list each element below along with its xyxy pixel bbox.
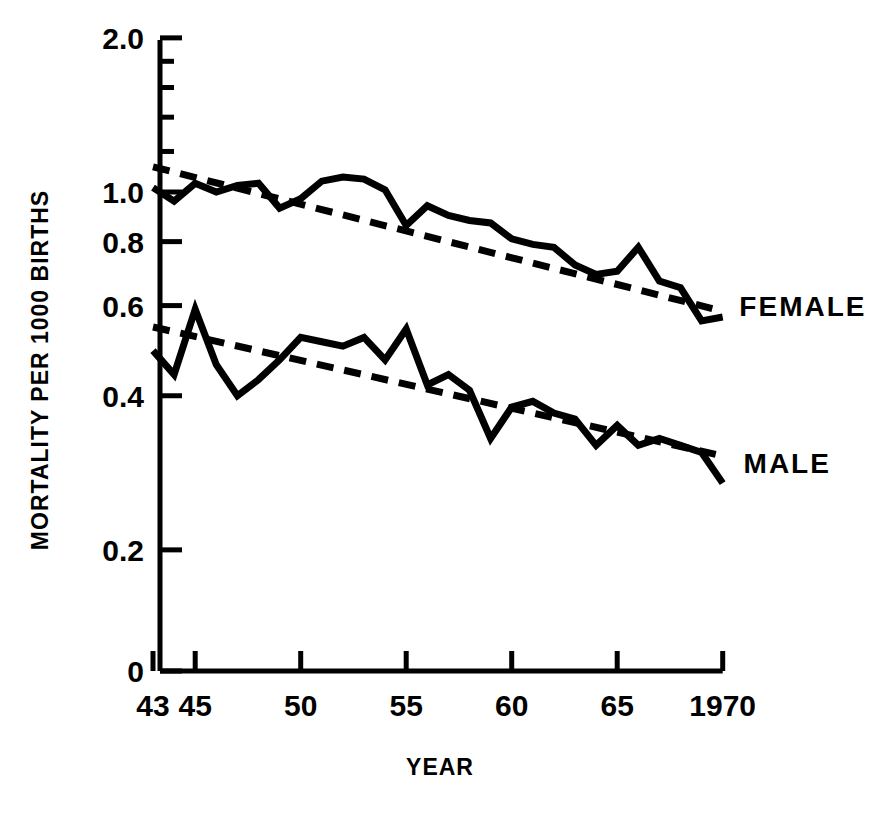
x-tick-label-65: 65 <box>601 689 634 722</box>
series-annotations: FEMALEMALE <box>739 291 866 480</box>
x-tick-label-43: 43 <box>136 689 169 722</box>
mortality-line-chart-figure: 2.01.00.80.60.40.20 4345505560651970 FEM… <box>0 0 889 815</box>
chart-canvas: 2.01.00.80.60.40.20 4345505560651970 FEM… <box>0 0 889 815</box>
x-tick-label-45: 45 <box>179 689 212 722</box>
y-tick-label-0.6: 0.6 <box>102 290 144 323</box>
y-axis-tick-labels: 2.01.00.80.60.40.20 <box>102 22 144 688</box>
y-tick-label-0.2: 0.2 <box>102 534 144 567</box>
y-axis-title: MORTALITY PER 1000 BIRTHS <box>27 190 53 550</box>
y-tick-label-0.8: 0.8 <box>102 226 144 259</box>
series-line-female-trend <box>153 167 723 311</box>
x-axis-title: YEAR <box>406 754 474 780</box>
x-tick-label-50: 50 <box>284 689 317 722</box>
series-line-male <box>153 309 723 483</box>
series-label-female: FEMALE <box>739 291 866 322</box>
x-tick-label-55: 55 <box>390 689 423 722</box>
data-series <box>153 167 723 483</box>
x-tick-label-60: 60 <box>495 689 528 722</box>
tick-marks <box>153 38 723 671</box>
x-axis-tick-labels: 4345505560651970 <box>136 689 756 722</box>
x-tick-label-1970: 1970 <box>689 689 756 722</box>
y-tick-label-0: 0 <box>127 655 144 688</box>
series-line-female <box>153 177 723 321</box>
axes <box>160 40 723 671</box>
y-tick-label-2.0: 2.0 <box>102 22 144 55</box>
series-label-male: MALE <box>744 448 831 479</box>
y-tick-label-1.0: 1.0 <box>102 176 144 209</box>
y-tick-label-0.4: 0.4 <box>102 380 144 413</box>
